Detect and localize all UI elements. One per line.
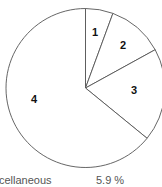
pie-chart: 1234 (0, 0, 162, 175)
legend-value: 5.9 % (96, 174, 124, 186)
slice-label-4: 4 (31, 93, 38, 105)
legend-row: cellaneous 5.9 % (0, 174, 162, 187)
slice-label-2: 2 (120, 39, 126, 51)
slice-label-3: 3 (131, 84, 137, 96)
pie-slices (6, 9, 162, 168)
slice-label-1: 1 (92, 26, 98, 38)
legend-label: cellaneous (0, 174, 52, 186)
